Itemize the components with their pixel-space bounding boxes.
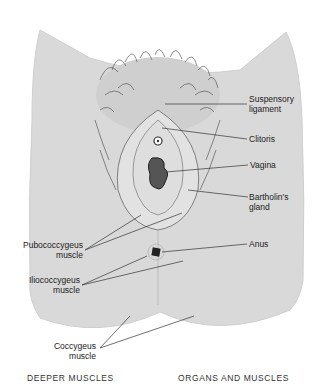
label-suspensory-ligament: Suspensory ligament (249, 94, 294, 114)
caption-deeper-muscles: DEEPER MUSCLES (27, 373, 114, 383)
label-clitoris: Clitoris (249, 134, 275, 144)
label-iliococcygeus-muscle: Iliococcygeus muscle (20, 275, 80, 295)
label-vagina: Vagina (250, 160, 276, 170)
label-bartholins-gland: Bartholin's gland (249, 192, 288, 212)
label-pubococcygeus-muscle: Pubococcygeus muscle (20, 240, 83, 260)
caption-organs-and-muscles: ORGANS AND MUSCLES (178, 373, 289, 383)
label-anus: Anus (249, 239, 268, 249)
anus-shape (151, 247, 160, 256)
label-coccygeus-muscle: Coccygeus muscle (40, 341, 96, 361)
